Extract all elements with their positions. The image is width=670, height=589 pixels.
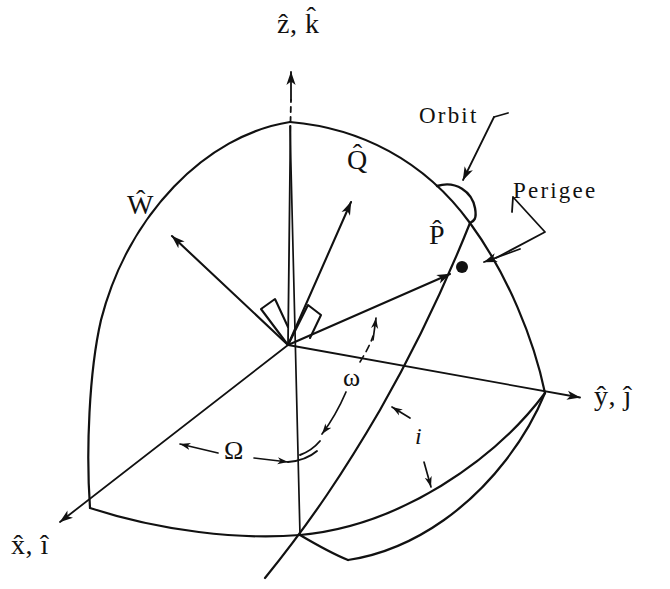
arg-perigee-leader-down [322, 392, 346, 434]
sphere-lower-right-arc [348, 393, 545, 560]
diagram-canvas [0, 0, 670, 589]
q-vector-label: Q̂ [347, 146, 367, 174]
perigee-label: Perigee [513, 179, 597, 202]
w-unit-vector [172, 236, 288, 345]
right-angle-mark-right [288, 305, 321, 345]
perigee-point-dot [456, 261, 468, 273]
w-vector-label: Ŵ [127, 191, 153, 219]
orbit-great-circle [265, 223, 470, 578]
inclination-arrow-down [424, 462, 431, 487]
y-axis-line [288, 345, 580, 398]
arg-perigee-leader-up [360, 336, 373, 362]
inclination-arrow-up [392, 407, 410, 418]
orbital-elements-figure: ẑ, k̂ ŷ, ĵ x̂, î Ŵ Q̂ P̂ Orbit Perigee Ω… [0, 0, 670, 589]
arg-perigee-arrow-up [373, 318, 376, 340]
orbit-leader-tick [494, 113, 508, 117]
raan-angle-label: Ω [224, 438, 243, 464]
arg-perigee-angle-label: ω [343, 365, 360, 391]
p-vector-label: P̂ [429, 221, 445, 249]
sphere-left-arc [88, 122, 290, 508]
z-axis-label: ẑ, k̂ [277, 10, 319, 38]
inclination-angle-label: i [415, 424, 422, 448]
orbit-label: Orbit [419, 104, 479, 127]
raan-arrow-left [180, 444, 218, 453]
z-axis-dash [291, 100, 292, 122]
y-axis-label: ŷ, ĵ [594, 382, 632, 410]
q-unit-vector [288, 202, 351, 345]
arg-perigee-angle-arc [300, 441, 320, 455]
equatorial-bottom-arc [90, 393, 545, 536]
raan-angle-arc [288, 451, 317, 462]
x-axis-line [60, 345, 288, 522]
raan-arrow-right [254, 458, 288, 462]
x-axis-label: x̂, î [11, 531, 49, 559]
equator-far-lower-arc [300, 535, 348, 560]
